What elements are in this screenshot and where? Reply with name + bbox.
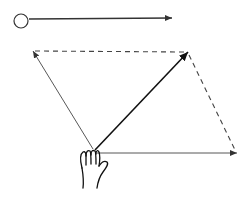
reference-arrow-line [29,18,172,19]
reference-arrow [14,14,172,28]
dashed-edge-right [189,55,235,150]
vector-resultant [95,52,188,150]
diagram-svg [0,0,249,197]
circle-icon [14,14,28,28]
vector-left [33,51,93,149]
dashed-edge-top [35,51,186,52]
vector-diagram [0,0,249,197]
hand-icon [81,150,108,188]
